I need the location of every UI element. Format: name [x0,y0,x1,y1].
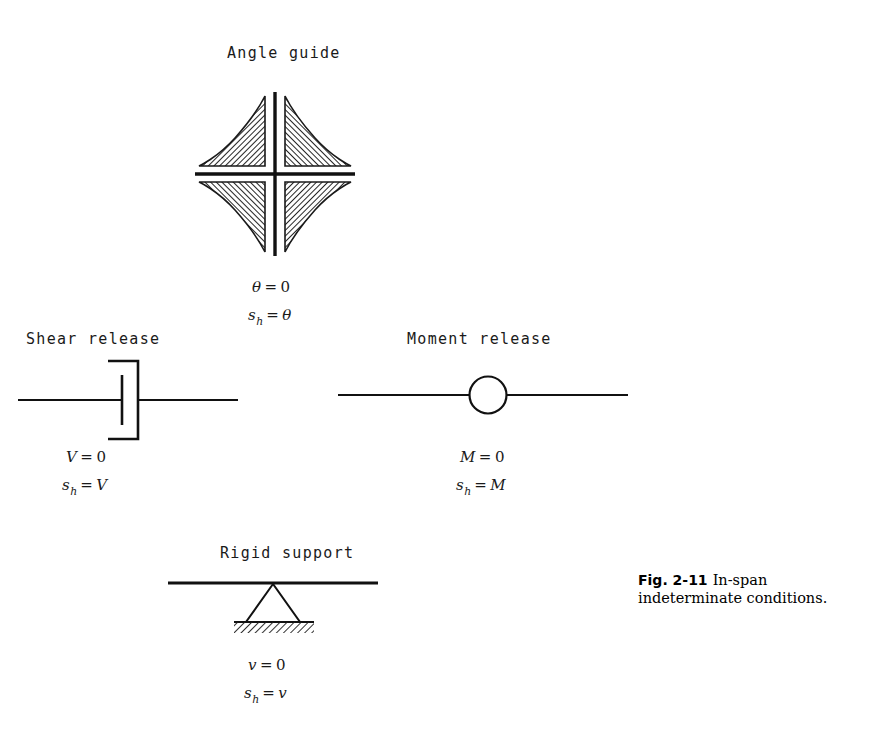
angle-guide-equation-1: θ=0 [252,278,291,296]
shear-release-equation-2: sh=V [62,476,108,498]
rigid-support-symbol [168,578,378,634]
eq-operator: = [263,306,282,324]
eq-lhs: v [248,656,257,674]
angle-guide-symbol [195,88,355,260]
eq-rhs: 0 [495,448,505,466]
moment-release-symbol [338,370,628,420]
angle-guide-quadrant-bottom-right [285,182,351,252]
eq-lhs: M [460,448,476,466]
eq-rhs: M [490,476,506,494]
rigid-support-ground-hatching [234,622,314,633]
moment-release-equation-2: sh=M [456,476,506,498]
moment-release-equation-1: M=0 [460,448,505,466]
eq-lhs: θ [252,278,262,296]
eq-lhs: V [66,448,77,466]
eq-rhs: V [96,476,107,494]
eq-lhs: s [248,306,256,324]
figure-caption: Fig. 2-11In-span indeterminate condition… [638,572,848,607]
eq-rhs: 0 [96,448,106,466]
eq-rhs: v [278,684,287,702]
eq-lhs: s [62,476,70,494]
eq-lhs: s [456,476,464,494]
eq-operator: = [77,448,96,466]
eq-operator: = [257,656,276,674]
eq-operator: = [471,476,490,494]
rigid-support-equation-1: v=0 [248,656,286,674]
eq-rhs: 0 [281,278,291,296]
rigid-support-triangle [246,584,300,622]
angle-guide-quadrant-bottom-left [199,182,265,252]
angle-guide-cross [195,92,355,256]
moment-release-hinge-circle [470,377,507,414]
eq-rhs: θ [282,306,292,324]
rigid-support-equation-2: sh=v [244,684,287,706]
angle-guide-quadrant-top-right [285,96,351,166]
figure-sheet: Angle guide θ=0 s [0,0,886,748]
moment-release-title: Moment release [407,330,552,348]
eq-operator: = [262,278,281,296]
eq-operator: = [476,448,495,466]
eq-operator: = [259,684,278,702]
angle-guide-quadrant-top-left [199,96,265,166]
eq-lhs: s [244,684,252,702]
shear-release-title: Shear release [26,330,160,348]
shear-release-equation-1: V=0 [66,448,106,466]
angle-guide-equation-2: sh=θ [248,306,292,328]
eq-operator: = [77,476,96,494]
angle-guide-title: Angle guide [227,44,341,62]
rigid-support-title: Rigid support [220,544,354,562]
shear-release-symbol [18,355,238,445]
eq-rhs: 0 [276,656,286,674]
figure-caption-label: Fig. 2-11 [638,572,708,588]
